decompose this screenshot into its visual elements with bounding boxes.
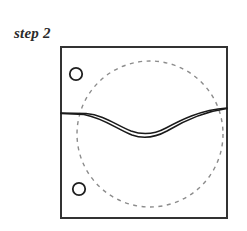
upper-wave-curve [61, 108, 227, 133]
figure-container: step 2 [0, 0, 247, 231]
square-frame [61, 47, 227, 218]
lower-small-circle [73, 183, 85, 195]
upper-small-circle [70, 68, 82, 80]
figure-drawing [0, 0, 247, 231]
